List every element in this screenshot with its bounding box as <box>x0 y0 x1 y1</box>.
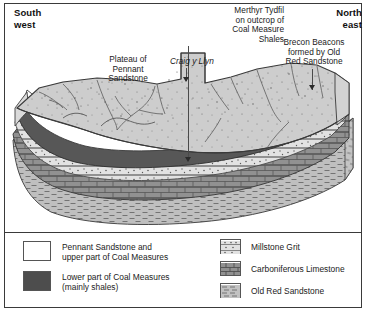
legend-label-pennant-sandstone-line2: upper part of Coal Measures <box>62 252 168 262</box>
legend-label-millstone-grit: Millstone Grit <box>251 239 300 252</box>
legend-label-carboniferous-limestone: Carboniferous Limestone <box>251 261 345 274</box>
legend-item-lower-coal-measures: Lower part of Coal Measures (mainly shal… <box>23 271 170 292</box>
annotation-plateau-pennant-sandstone: Plateau of Pennant Sandstone <box>92 55 164 84</box>
annotation-brecon-beacons: Brecon Beacons formed by Old Red Sandsto… <box>266 38 362 67</box>
legend-label-pennant-sandstone-line1: Pennant Sandstone and <box>62 242 168 252</box>
legend-swatch-old-red-sandstone <box>220 283 241 298</box>
legend-item-pennant-sandstone: Pennant Sandstone and upper part of Coal… <box>23 241 168 262</box>
legend-label-pennant-sandstone: Pennant Sandstone and upper part of Coal… <box>62 241 168 262</box>
legend-swatch-millstone-grit <box>220 239 241 254</box>
annotation-craig-y-llyn: Craig y Llyn <box>170 57 234 67</box>
figure-root: South west North east Merthyr Tydfil on … <box>0 0 370 313</box>
legend: Pennant Sandstone and upper part of Coal… <box>5 233 361 307</box>
direction-label-southwest: South west <box>14 7 84 30</box>
legend-swatch-carboniferous-limestone <box>220 261 241 276</box>
legend-swatch-pennant-sandstone <box>23 241 51 261</box>
direction-label-northeast-line2: east <box>292 19 362 31</box>
arrowhead-brecon-beacons <box>309 85 315 90</box>
legend-label-lower-coal-measures-line1: Lower part of Coal Measures <box>62 272 170 282</box>
direction-label-southwest-line1: South <box>14 7 84 19</box>
direction-label-southwest-line2: west <box>14 19 84 31</box>
arrowhead-craig-y-llyn <box>183 77 189 82</box>
arrowhead-merthyr-tydfil <box>185 157 191 162</box>
legend-label-lower-coal-measures: Lower part of Coal Measures (mainly shal… <box>62 271 170 292</box>
legend-label-lower-coal-measures-line2: (mainly shales) <box>62 282 170 292</box>
legend-item-old-red-sandstone: Old Red Sandstone <box>220 283 324 298</box>
legend-item-millstone-grit: Millstone Grit <box>220 239 300 254</box>
direction-label-northeast: North east <box>292 7 362 30</box>
legend-label-old-red-sandstone: Old Red Sandstone <box>251 283 324 296</box>
legend-swatch-lower-coal-measures <box>23 271 51 291</box>
legend-item-carboniferous-limestone: Carboniferous Limestone <box>220 261 345 276</box>
direction-label-northeast-line1: North <box>292 7 362 19</box>
